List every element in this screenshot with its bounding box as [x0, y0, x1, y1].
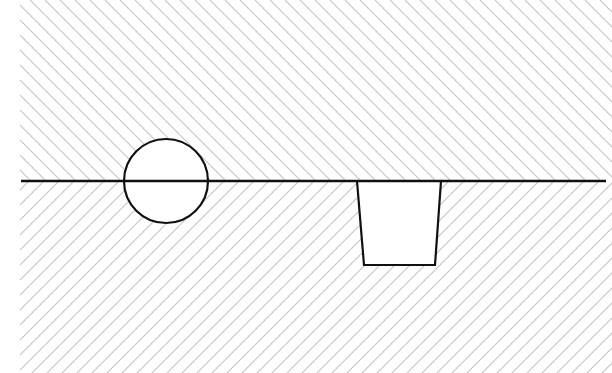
lower-hatched-region: [20, 181, 612, 373]
trapezoid-groove: [357, 181, 441, 265]
upper-hatched-region: [20, 0, 612, 181]
cross-section-diagram: [0, 0, 612, 373]
